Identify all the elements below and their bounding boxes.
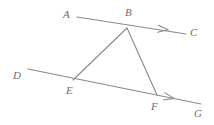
vertex-label-c: C (190, 27, 197, 38)
segment-b-to-f (127, 28, 157, 95)
geometry-figure: A B C D E F G (0, 0, 214, 125)
geometry-canvas (0, 0, 214, 125)
arrowhead-toward-c (158, 25, 169, 33)
vertex-label-d: D (13, 70, 21, 81)
ray-d-to-g (28, 69, 201, 104)
vertex-label-b: B (125, 7, 132, 18)
ray-a-to-c (77, 17, 186, 34)
vertex-label-a: A (63, 9, 70, 20)
vertex-label-g: G (194, 108, 202, 119)
vertex-label-e: E (66, 85, 73, 96)
segment-b-to-e (73, 28, 127, 80)
vertex-label-f: F (151, 101, 158, 112)
